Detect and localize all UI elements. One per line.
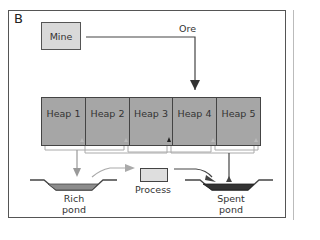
heap-5-outlet-icon [254,138,258,142]
heap-4-outlet-icon [211,138,215,142]
ore-flow-line [86,37,195,90]
rich-to-process-arrowhead [125,164,135,172]
spent-pond-label: Spent pond [214,193,248,215]
rich-pond-label-line1: Rich [59,193,89,204]
ore-arrowhead [190,80,200,90]
heap-2-outlet-icon [124,138,128,142]
rich-pond-label-line2: pond [59,204,89,215]
rich-feed-arrowhead [73,168,81,177]
spent-feed-arrowhead [226,176,232,182]
spent-pond-label-line2: pond [214,204,248,215]
rich-pond [48,184,98,190]
rich-pond-label: Rich pond [59,193,89,215]
heap-1-outlet-icon [80,138,84,142]
rich-to-process-line [92,168,127,177]
heap-3-outlet-icon [167,137,171,142]
spent-pond-label-line1: Spent [214,193,248,204]
spent-pond [203,184,254,190]
process-node [140,168,168,182]
process-label: Process [135,184,171,195]
